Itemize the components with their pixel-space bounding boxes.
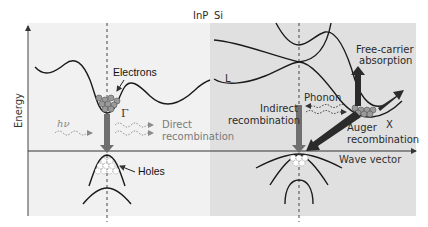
free-carrier-label-line1: Free-carrier (356, 44, 414, 55)
electrons-label: Electrons (113, 66, 157, 78)
indirect-recombination-label-line1: Indirect (260, 103, 298, 114)
gamma-label: Γ (121, 107, 129, 120)
free-carrier-label-line2: absorption (359, 55, 412, 66)
holes-label: Holes (138, 165, 165, 177)
L-valley-label: L (225, 73, 231, 84)
indirect-recombination-label-line2: recombination (228, 115, 300, 126)
wave-vector-label: Wave vector (339, 154, 402, 165)
direct-recombination-label-line1: Direct (162, 119, 192, 130)
energy-label: Energy (13, 93, 24, 128)
direct-recombination-arrow-shaft (104, 114, 110, 146)
inp-material-label: InP (193, 10, 208, 21)
photon-hv-label: hν (57, 118, 70, 129)
auger-label-line2: recombination (347, 134, 419, 145)
X-valley-label: X (386, 119, 393, 130)
direct-recombination-label-line2: recombination (162, 131, 234, 142)
auger-label-line1: Auger (347, 122, 378, 133)
free-carrier-absorption-up-arrow-shaft (355, 73, 361, 106)
si-material-label: Si (214, 10, 223, 21)
band-diagram: Electrons Γ hν Direct recombination Hole… (0, 0, 428, 227)
phonon-label: Phonon (304, 92, 341, 103)
